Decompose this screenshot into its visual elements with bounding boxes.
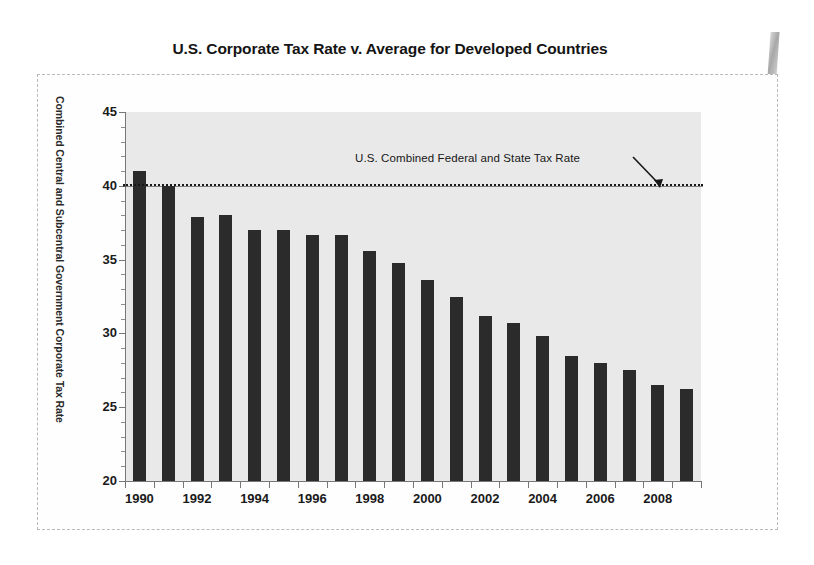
- y-minor-tick-mark: [121, 319, 125, 320]
- bar: [363, 251, 376, 481]
- y-tick-mark: [119, 260, 125, 261]
- y-minor-tick-mark: [121, 142, 125, 143]
- bar: [450, 297, 463, 482]
- y-minor-tick-mark: [121, 437, 125, 438]
- x-tick-mark: [327, 482, 328, 488]
- bar: [219, 215, 232, 481]
- x-tick-label: 1994: [225, 491, 285, 506]
- y-tick-mark: [119, 407, 125, 408]
- bar: [248, 230, 261, 481]
- x-tick-mark: [240, 482, 241, 488]
- annotation-arrow-icon: [630, 154, 670, 194]
- x-tick-mark: [672, 482, 673, 488]
- x-tick-mark: [125, 482, 126, 488]
- y-axis-line: [125, 112, 126, 482]
- y-axis-title: Combined Central and Subcentral Governme…: [52, 0, 66, 96]
- x-tick-label: 2006: [570, 491, 630, 506]
- y-minor-tick-mark: [121, 289, 125, 290]
- x-tick-mark: [183, 482, 184, 488]
- x-tick-label: 1990: [109, 491, 169, 506]
- y-minor-tick-mark: [121, 245, 125, 246]
- x-tick-mark: [355, 482, 356, 488]
- x-tick-mark: [701, 482, 702, 488]
- y-tick-mark: [119, 333, 125, 334]
- x-tick-label: 2000: [397, 491, 457, 506]
- y-minor-tick-mark: [121, 422, 125, 423]
- y-minor-tick-mark: [121, 230, 125, 231]
- y-minor-tick-mark: [121, 215, 125, 216]
- x-tick-label: 1998: [340, 491, 400, 506]
- y-minor-tick-mark: [121, 171, 125, 172]
- y-minor-tick-mark: [121, 363, 125, 364]
- x-tick-label: 2002: [455, 491, 515, 506]
- y-minor-tick-mark: [121, 451, 125, 452]
- y-minor-tick-mark: [121, 466, 125, 467]
- x-tick-mark: [586, 482, 587, 488]
- x-tick-mark: [298, 482, 299, 488]
- bar: [306, 235, 319, 481]
- y-minor-tick-mark: [121, 201, 125, 202]
- y-tick-label: 45: [83, 104, 117, 119]
- chart-title: U.S. Corporate Tax Rate v. Average for D…: [0, 40, 780, 58]
- annotation-label: U.S. Combined Federal and State Tax Rate: [355, 152, 580, 164]
- x-tick-label: 1992: [167, 491, 227, 506]
- x-tick-label: 1996: [282, 491, 342, 506]
- y-minor-tick-mark: [121, 304, 125, 305]
- bar: [133, 171, 146, 481]
- y-minor-tick-mark: [121, 378, 125, 379]
- x-tick-mark: [384, 482, 385, 488]
- bar: [162, 186, 175, 481]
- y-tick-label: 35: [83, 252, 117, 267]
- bar: [191, 217, 204, 481]
- bar: [507, 323, 520, 481]
- bar: [421, 280, 434, 481]
- bar: [479, 316, 492, 481]
- bar: [680, 389, 693, 481]
- bar: [565, 356, 578, 481]
- y-minor-tick-mark: [121, 156, 125, 157]
- x-tick-mark: [442, 482, 443, 488]
- plot-area: [125, 112, 701, 481]
- x-tick-mark: [615, 482, 616, 488]
- y-axis-title-label: Combined Central and Subcentral Governme…: [54, 96, 66, 486]
- x-tick-label: 2008: [628, 491, 688, 506]
- x-tick-mark: [211, 482, 212, 488]
- bar: [392, 263, 405, 481]
- y-tick-label: 25: [83, 399, 117, 414]
- x-tick-mark: [413, 482, 414, 488]
- bar: [277, 230, 290, 481]
- y-tick-label: 40: [83, 178, 117, 193]
- us-combined-rate-line: [123, 184, 703, 186]
- bar: [335, 235, 348, 481]
- y-minor-tick-mark: [121, 392, 125, 393]
- bar: [536, 336, 549, 481]
- bar: [651, 385, 664, 481]
- y-axis-labels: 202530354045: [79, 112, 117, 482]
- y-minor-tick-mark: [121, 274, 125, 275]
- y-minor-tick-mark: [121, 348, 125, 349]
- y-tick-label: 20: [83, 473, 117, 488]
- x-tick-mark: [269, 482, 270, 488]
- x-tick-mark: [643, 482, 644, 488]
- y-tick-label: 30: [83, 325, 117, 340]
- y-minor-tick-mark: [121, 127, 125, 128]
- x-tick-mark: [471, 482, 472, 488]
- bar: [623, 370, 636, 481]
- x-tick-mark: [528, 482, 529, 488]
- x-tick-mark: [557, 482, 558, 488]
- y-tick-mark: [119, 112, 125, 113]
- us-rate-line-shadow: [123, 186, 703, 187]
- x-tick-mark: [499, 482, 500, 488]
- x-tick-label: 2004: [513, 491, 573, 506]
- bar: [594, 363, 607, 481]
- x-tick-mark: [154, 482, 155, 488]
